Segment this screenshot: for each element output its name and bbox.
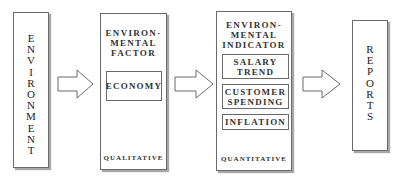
customer-spending-label: SPENDING — [227, 97, 283, 107]
environmental-factor-box: ENVIRON- MENTAL FACTOR ECONOMY QUALITATI… — [100, 13, 167, 170]
salary-trend-label: SALARY — [234, 57, 278, 67]
arrow-right-icon — [302, 69, 342, 99]
title-line: ENVIRON- — [217, 20, 291, 30]
arrow-right-icon — [174, 69, 215, 99]
environmental-factor-title: ENVIRON- MENTAL FACTOR — [101, 28, 166, 58]
title-line: INDICATOR — [217, 40, 291, 50]
environmental-indicator-box: ENVIRON- MENTAL INDICATOR SALARY TREND C… — [216, 11, 292, 171]
letter: T — [14, 145, 48, 156]
arrow-right-icon — [57, 69, 95, 99]
customer-spending-box: CUSTOMER SPENDING — [222, 84, 289, 109]
qualitative-label: QUALITATIVE — [101, 154, 166, 162]
inflation-box: INFLATION — [222, 114, 289, 130]
salary-trend-box: SALARY TREND — [222, 54, 289, 79]
economy-box: ECONOMY — [106, 71, 162, 101]
title-line: MENTAL — [101, 38, 166, 48]
letter: V — [14, 55, 48, 66]
customer-spending-label: CUSTOMER — [225, 87, 286, 97]
inflation-label: INFLATION — [225, 117, 286, 127]
quantitative-label: QUANTITATIVE — [217, 155, 291, 163]
title-line: MENTAL — [217, 30, 291, 40]
economy-label: ECONOMY — [106, 81, 162, 91]
environment-box: ENVIRONMENT — [13, 12, 49, 168]
letter: S — [353, 111, 387, 122]
reports-label: REPORTS — [353, 44, 387, 122]
reports-box: REPORTS — [352, 20, 388, 151]
title-line: ENVIRON- — [101, 28, 166, 38]
environment-label: ENVIRONMENT — [14, 33, 48, 156]
title-line: FACTOR — [101, 48, 166, 58]
letter: M — [14, 111, 48, 122]
salary-trend-label: TREND — [237, 67, 275, 77]
environmental-indicator-title: ENVIRON- MENTAL INDICATOR — [217, 20, 291, 50]
letter: P — [353, 66, 387, 77]
